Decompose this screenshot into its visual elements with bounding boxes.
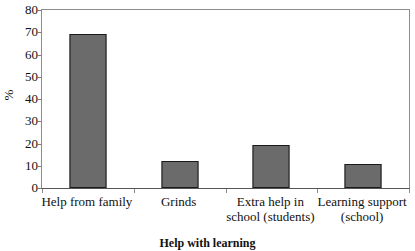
y-axis-tick-mark (37, 166, 41, 167)
x-axis-category-label-line: (school) (316, 209, 408, 224)
y-axis-tick-label: 30 (0, 114, 38, 127)
y-axis-tick-mark (37, 99, 41, 100)
bar (69, 34, 106, 188)
x-axis-category-label-line: Grinds (133, 194, 225, 209)
bar-group (134, 10, 226, 188)
x-axis-category-label-line: Learning support (316, 194, 408, 209)
y-axis-tick-label: 60 (0, 48, 38, 61)
y-axis-tick-label: 0 (0, 181, 38, 194)
y-axis-tick-mark (37, 188, 41, 189)
y-axis-tick-mark (37, 77, 41, 78)
x-axis-tick-mark (409, 189, 410, 193)
x-axis-category-label-line: Help from family (41, 194, 133, 209)
x-axis-title: Help with learning (0, 236, 415, 251)
y-axis-tick-mark (37, 121, 41, 122)
x-axis-category-label: Grinds (133, 194, 225, 209)
bar-group (42, 10, 134, 188)
y-axis-tick-label: 20 (0, 137, 38, 150)
x-axis-tick-mark (42, 189, 43, 193)
bar-group (226, 10, 318, 188)
bar (345, 164, 382, 188)
y-axis-tick-label: 50 (0, 70, 38, 83)
y-axis-tick-mark (37, 32, 41, 33)
x-axis-tick-mark (317, 189, 318, 193)
bar-group (317, 10, 409, 188)
y-axis-tick-label: 40 (0, 92, 38, 105)
x-axis-tick-mark (134, 189, 135, 193)
y-axis-tick-label: 10 (0, 159, 38, 172)
y-axis-tick-label: 70 (0, 25, 38, 38)
x-axis-category-label: Extra help inschool (students) (225, 194, 317, 224)
x-axis-labels: Help from familyGrindsExtra help inschoo… (41, 194, 410, 230)
x-axis-category-label-line: school (students) (225, 209, 317, 224)
bar (161, 161, 198, 188)
bar (253, 145, 290, 188)
x-axis-category-label: Help from family (41, 194, 133, 209)
y-axis-tick-label: 80 (0, 3, 38, 16)
x-axis-category-label: Learning support(school) (316, 194, 408, 224)
y-axis-tick-mark (37, 10, 41, 11)
y-axis-tick-mark (37, 144, 41, 145)
y-axis-tick-mark (37, 55, 41, 56)
x-axis-category-label-line: Extra help in (225, 194, 317, 209)
x-axis-tick-mark (226, 189, 227, 193)
bars-container (42, 10, 409, 188)
